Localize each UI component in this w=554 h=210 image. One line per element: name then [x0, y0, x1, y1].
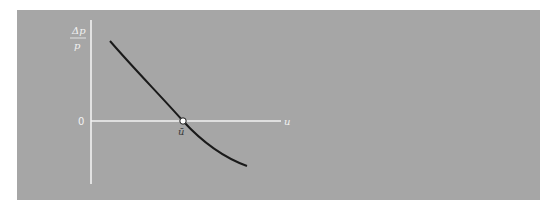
diagram-canvas: Δp p 0 u ū [0, 0, 554, 210]
intercept-label: ū [178, 126, 184, 137]
origin-label: 0 [78, 116, 84, 127]
response-curve [110, 41, 247, 166]
y-axis-label-denominator: p [74, 40, 81, 51]
intercept-marker [180, 118, 186, 124]
y-axis-label-numerator: Δp [71, 25, 86, 36]
x-axis-label: u [284, 116, 290, 127]
